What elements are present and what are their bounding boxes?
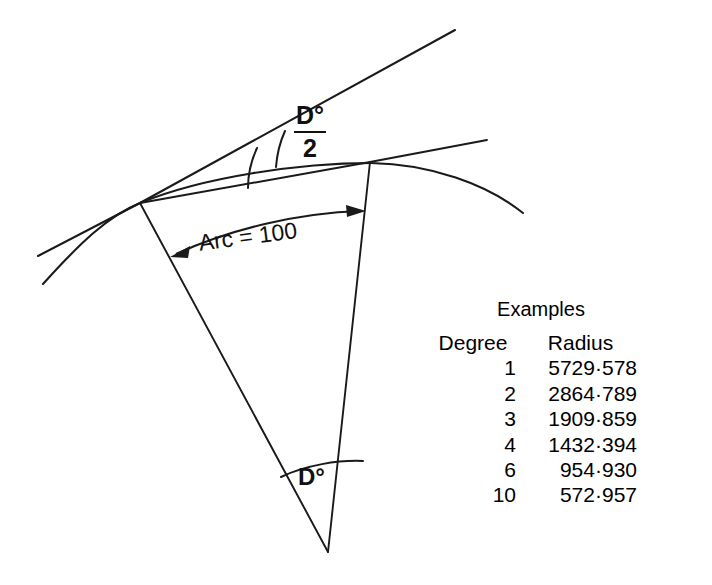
examples-body: 1 5729·578 2 2864·789 3 1909·859 4 1432·… <box>430 355 645 507</box>
arc-dimension-arrow-right <box>346 205 366 217</box>
cell-degree: 3 <box>430 406 516 431</box>
half-angle-numerator: D° <box>283 103 337 130</box>
examples-block: Examples Degree Radius 1 5729·578 2 2864… <box>430 298 660 508</box>
cell-degree: 1 <box>430 355 516 380</box>
table-row: 6 954·930 <box>430 457 645 482</box>
examples-title: Examples <box>448 298 634 321</box>
half-angle-label: D° 2 <box>283 103 337 161</box>
table-row: 4 1432·394 <box>430 432 645 457</box>
cell-degree: 10 <box>430 482 516 507</box>
half-angle-denominator: 2 <box>283 136 337 161</box>
back-tangent-line <box>38 30 455 256</box>
examples-table: Degree Radius 1 5729·578 2 2864·789 3 19… <box>430 330 645 508</box>
table-row: 10 572·957 <box>430 482 645 507</box>
right-radius-line <box>328 162 370 552</box>
column-header-radius: Radius <box>516 330 645 355</box>
table-row: 2 2864·789 <box>430 381 645 406</box>
cell-radius: 2864·789 <box>516 381 645 406</box>
table-row: 3 1909·859 <box>430 406 645 431</box>
cell-degree: 2 <box>430 381 516 406</box>
cell-degree: 4 <box>430 432 516 457</box>
fraction-bar <box>294 131 326 133</box>
examples-header-row: Degree Radius <box>430 330 645 355</box>
central-angle-label: D° <box>298 463 325 491</box>
cell-radius: 954·930 <box>516 457 645 482</box>
left-radius-line <box>140 203 328 552</box>
cell-degree: 6 <box>430 457 516 482</box>
cell-radius: 572·957 <box>516 482 645 507</box>
cell-radius: 1909·859 <box>516 406 645 431</box>
cell-radius: 1432·394 <box>516 432 645 457</box>
column-header-degree: Degree <box>430 330 516 355</box>
arc-dimension-arrow-left <box>170 246 190 258</box>
table-row: 1 5729·578 <box>430 355 645 380</box>
cell-radius: 5729·578 <box>516 355 645 380</box>
